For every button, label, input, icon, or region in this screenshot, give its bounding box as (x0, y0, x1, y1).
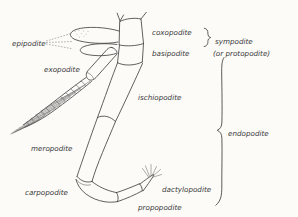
ischiopodite-segment (98, 63, 143, 122)
coxopodite-spike-right (141, 12, 147, 19)
endopodite-brace (216, 58, 224, 206)
dactylopodite-claw (140, 165, 162, 191)
coxopodite-segment (120, 18, 144, 46)
exopodite-joint-line (87, 73, 94, 79)
label-exopodite: exopodite (44, 65, 80, 74)
epipodite-leader-lines (47, 34, 74, 49)
label-ischiopodite: ischiopodite (138, 93, 182, 102)
label-meropodite: meropodite (31, 144, 73, 153)
label-basipodite: basipodite (152, 49, 190, 58)
epipodite-lobe-upper (70, 27, 119, 43)
label-propodite: propopodite (137, 203, 182, 212)
epipodite-lobe-lower (80, 44, 117, 56)
labels: epipodite exopodite coxopodite basipodit… (12, 28, 270, 212)
propodite-segment (117, 184, 143, 202)
label-epipodite: epipodite (12, 39, 46, 48)
flagellum-setae (11, 81, 90, 134)
label-endopodite: endopodite (228, 129, 269, 138)
carpopodite-segment (76, 180, 118, 203)
label-sympodite: sympodite (215, 37, 253, 46)
crustacean-limb-diagram: epipodite exopodite coxopodite basipodit… (0, 0, 298, 217)
epipodite-stipple (75, 30, 89, 37)
label-carpopodite: carpopodite (25, 188, 69, 197)
basipodite-segment (118, 44, 144, 66)
label-coxopodite: coxopodite (152, 28, 192, 37)
label-dactylopodite: dactylopodite (162, 185, 212, 194)
label-sympodite-alt: (or protopodite) (213, 49, 270, 58)
figure-canvas: epipodite exopodite coxopodite basipodit… (0, 0, 298, 217)
sympodite-brace (204, 28, 211, 46)
meropodite-segment (76, 118, 116, 186)
